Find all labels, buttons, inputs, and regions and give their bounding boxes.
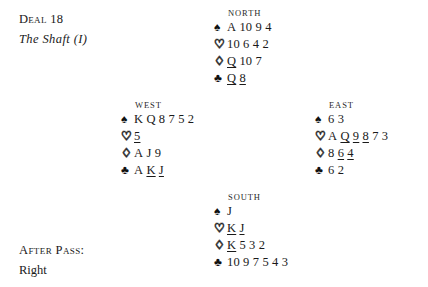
suit-row-heart: ♡KJ bbox=[214, 221, 288, 238]
suit-row-club: ♣62 bbox=[315, 163, 388, 180]
card-rank: 7 bbox=[372, 129, 378, 143]
card-rank: Q bbox=[227, 54, 236, 68]
card-rank: 10 bbox=[239, 54, 252, 68]
suit-list-west: ♠KQ8752♡5♢AJ9♣AKJ bbox=[121, 112, 194, 180]
diamond-suit-icon: ♢ bbox=[214, 239, 227, 251]
heart-suit-icon: ♡ bbox=[214, 38, 227, 50]
suit-row-spade: ♠KQ8752 bbox=[121, 112, 194, 129]
hand-label-north: NORTH bbox=[228, 8, 272, 18]
suit-row-heart: ♡5 bbox=[121, 129, 194, 146]
suit-row-spade: ♠63 bbox=[315, 112, 388, 129]
card-rank: 2 bbox=[188, 112, 194, 126]
card-ranks: AKJ bbox=[134, 163, 164, 178]
card-rank: 5 bbox=[239, 238, 245, 252]
card-rank: K bbox=[146, 163, 155, 177]
card-rank: Q bbox=[227, 71, 236, 85]
hand-label-west: WEST bbox=[135, 100, 194, 110]
suit-row-spade: ♠J bbox=[214, 204, 288, 221]
card-rank: A bbox=[134, 146, 143, 160]
card-ranks: AJ9 bbox=[134, 146, 161, 161]
spade-suit-icon: ♠ bbox=[214, 21, 227, 33]
after-pass-note: After Pass: Right bbox=[19, 241, 85, 280]
card-ranks: J bbox=[227, 204, 232, 219]
card-rank: 9 bbox=[155, 146, 161, 160]
deal-title: Deal 18 bbox=[19, 10, 87, 28]
card-rank: 5 bbox=[262, 255, 268, 269]
heart-suit-icon: ♡ bbox=[214, 222, 227, 234]
suit-row-heart: ♡AQ9873 bbox=[315, 129, 388, 146]
hand-south: SOUTH ♠J♡KJ♢K532♣1097543 bbox=[214, 192, 288, 272]
card-rank: A bbox=[134, 163, 143, 177]
club-suit-icon: ♣ bbox=[121, 164, 134, 176]
card-rank: 8 bbox=[328, 146, 334, 160]
heart-suit-icon: ♡ bbox=[315, 130, 328, 142]
card-rank: J bbox=[146, 146, 151, 160]
card-rank: 6 bbox=[328, 163, 334, 177]
card-rank: J bbox=[239, 221, 244, 235]
heart-suit-icon: ♡ bbox=[121, 130, 134, 142]
card-rank: J bbox=[227, 204, 232, 218]
card-ranks: 1097543 bbox=[227, 255, 288, 270]
diamond-suit-icon: ♢ bbox=[315, 147, 328, 159]
card-rank: 8 bbox=[159, 112, 165, 126]
card-ranks: 5 bbox=[134, 129, 140, 144]
hand-east: EAST ♠63♡AQ9873♢864♣62 bbox=[315, 100, 388, 180]
diamond-suit-icon: ♢ bbox=[214, 55, 227, 67]
hand-label-east: EAST bbox=[329, 100, 388, 110]
card-rank: K bbox=[134, 112, 143, 126]
card-rank: Q bbox=[340, 129, 349, 143]
card-rank: 2 bbox=[338, 163, 344, 177]
after-pass-value: Right bbox=[19, 261, 85, 280]
suit-row-diamond: ♢Q107 bbox=[214, 54, 272, 71]
card-rank: A bbox=[328, 129, 337, 143]
card-rank: 4 bbox=[272, 255, 278, 269]
card-ranks: Q8 bbox=[227, 71, 246, 86]
bridge-deal-diagram: Deal 18 The Shaft (I) NORTH ♠A1094♡10642… bbox=[0, 0, 428, 287]
card-rank: 10 bbox=[227, 37, 240, 51]
deal-header: Deal 18 The Shaft (I) bbox=[19, 10, 87, 48]
card-ranks: Q107 bbox=[227, 54, 262, 69]
card-rank: 9 bbox=[353, 129, 359, 143]
card-rank: 6 bbox=[328, 112, 334, 126]
suit-row-club: ♣1097543 bbox=[214, 255, 288, 272]
suit-list-north: ♠A1094♡10642♢Q107♣Q8 bbox=[214, 20, 272, 88]
card-rank: 9 bbox=[243, 255, 249, 269]
card-ranks: 63 bbox=[328, 112, 344, 127]
club-suit-icon: ♣ bbox=[315, 164, 328, 176]
card-ranks: 864 bbox=[328, 146, 354, 161]
card-rank: J bbox=[159, 163, 164, 177]
club-suit-icon: ♣ bbox=[214, 72, 227, 84]
card-ranks: 10642 bbox=[227, 37, 269, 52]
card-rank: 10 bbox=[239, 20, 252, 34]
suit-row-diamond: ♢AJ9 bbox=[121, 146, 194, 163]
card-rank: 3 bbox=[382, 129, 388, 143]
card-rank: 8 bbox=[239, 71, 245, 85]
card-rank: K bbox=[227, 221, 236, 235]
club-suit-icon: ♣ bbox=[214, 256, 227, 268]
suit-row-diamond: ♢864 bbox=[315, 146, 388, 163]
card-ranks: KQ8752 bbox=[134, 112, 194, 127]
card-ranks: K532 bbox=[227, 238, 265, 253]
hand-label-south: SOUTH bbox=[228, 192, 288, 202]
card-rank: 2 bbox=[259, 238, 265, 252]
card-rank: 5 bbox=[134, 129, 140, 143]
spade-suit-icon: ♠ bbox=[214, 205, 227, 217]
card-rank: 9 bbox=[256, 20, 262, 34]
card-rank: 7 bbox=[256, 54, 262, 68]
after-pass-label: After Pass: bbox=[19, 241, 85, 260]
card-ranks: 62 bbox=[328, 163, 344, 178]
card-rank: Q bbox=[146, 112, 155, 126]
card-rank: 6 bbox=[243, 37, 249, 51]
card-rank: 6 bbox=[338, 146, 344, 160]
card-rank: K bbox=[227, 238, 236, 252]
suit-row-spade: ♠A1094 bbox=[214, 20, 272, 37]
spade-suit-icon: ♠ bbox=[315, 113, 328, 125]
card-ranks: A1094 bbox=[227, 20, 272, 35]
card-rank: 7 bbox=[253, 255, 259, 269]
hand-west: WEST ♠KQ8752♡5♢AJ9♣AKJ bbox=[121, 100, 194, 180]
card-rank: 5 bbox=[178, 112, 184, 126]
card-rank: 7 bbox=[168, 112, 174, 126]
hand-north: NORTH ♠A1094♡10642♢Q107♣Q8 bbox=[214, 8, 272, 88]
deal-subtitle: The Shaft (I) bbox=[19, 30, 87, 48]
card-ranks: AQ9873 bbox=[328, 129, 388, 144]
